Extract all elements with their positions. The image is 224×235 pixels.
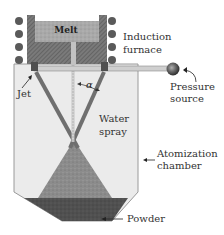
coil-turn (15, 56, 23, 64)
coil-turn (108, 43, 116, 51)
label-pressure-source-2: source (170, 93, 204, 104)
label-atomization-chamber-2: chamber (157, 160, 202, 171)
powder-bed (24, 198, 128, 221)
label-alpha: α (86, 79, 93, 90)
label-pressure-source-1: Pressure (170, 81, 215, 92)
coil-turn (15, 43, 23, 51)
water-atomization-diagram: Melt Induction furnace Jet α Pressure so… (0, 0, 224, 235)
jet-left (31, 62, 38, 71)
label-jet: Jet (16, 88, 31, 99)
coil-turn (15, 30, 23, 38)
induction-coil-left (15, 17, 23, 64)
crucible-right-wall (99, 15, 107, 64)
label-melt: Melt (54, 25, 78, 35)
label-water-spray-1: Water (99, 113, 129, 124)
coil-turn (108, 17, 116, 25)
chamber-arrow (143, 158, 155, 162)
nozzle (71, 42, 76, 64)
pressure-source (167, 63, 180, 76)
coil-turn (108, 56, 116, 64)
label-induction-furnace-1: Induction (123, 31, 172, 42)
crucible-left-wall (27, 15, 35, 64)
coil-turn (15, 17, 23, 25)
label-powder: Powder (127, 213, 165, 224)
crucible-bottom (35, 42, 99, 64)
label-induction-furnace-2: furnace (123, 44, 162, 55)
label-water-spray-2: spray (99, 126, 127, 137)
induction-coil-right (108, 17, 116, 64)
jet-right (101, 62, 108, 71)
pressure-arrow (183, 67, 196, 82)
coil-turn (108, 30, 116, 38)
label-atomization-chamber-1: Atomization (156, 148, 218, 159)
crucible (27, 15, 107, 64)
